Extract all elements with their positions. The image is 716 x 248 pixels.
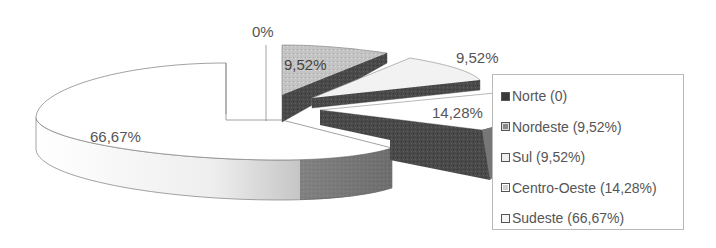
legend-item-sul: Sul (9,52%) bbox=[493, 142, 683, 173]
legend-swatch-icon bbox=[501, 183, 510, 192]
label-sudeste: 66,67% bbox=[90, 128, 141, 145]
legend-label: Centro-Oeste (14,28%) bbox=[512, 180, 657, 196]
label-norte: 0% bbox=[252, 23, 274, 40]
label-nordeste: 9,52% bbox=[284, 56, 327, 73]
legend-swatch-icon bbox=[501, 214, 510, 223]
label-sul: 9,52% bbox=[456, 49, 499, 66]
legend-label: Nordeste (9,52%) bbox=[512, 119, 622, 135]
legend-label: Norte (0) bbox=[512, 88, 567, 104]
legend-swatch-icon bbox=[501, 122, 510, 131]
legend-swatch-icon bbox=[501, 153, 510, 162]
legend-label: Sudeste (66,67%) bbox=[512, 210, 624, 226]
slice-norte: 0% bbox=[252, 23, 274, 121]
label-centro-oeste: 14,28% bbox=[432, 104, 483, 121]
legend-item-nordeste: Nordeste (9,52%) bbox=[493, 112, 683, 143]
legend-item-norte: Norte (0) bbox=[493, 81, 683, 112]
legend: Norte (0) Nordeste (9,52%) Sul (9,52%) C… bbox=[492, 74, 684, 230]
legend-swatch-icon bbox=[501, 92, 510, 101]
legend-item-sudeste: Sudeste (66,67%) bbox=[493, 203, 683, 234]
legend-label: Sul (9,52%) bbox=[512, 149, 585, 165]
legend-item-centro-oeste: Centro-Oeste (14,28%) bbox=[493, 173, 683, 204]
